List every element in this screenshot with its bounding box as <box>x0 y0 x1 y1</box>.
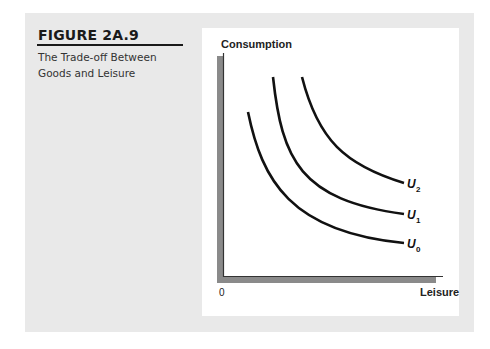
y-axis-shadow <box>217 56 223 283</box>
indifference-curve-diagram: Consumption Leisure 0 U 2 U 1 U 0 <box>0 0 490 349</box>
curve-label-u1: U 1 <box>407 208 421 225</box>
curve-label-u0: U 0 <box>407 237 421 254</box>
svg-text:0: 0 <box>416 245 421 254</box>
svg-text:2: 2 <box>416 185 421 194</box>
curve-u2 <box>302 77 404 183</box>
x-axis-shadow <box>217 277 436 283</box>
svg-text:1: 1 <box>416 216 421 225</box>
curve-label-u2: U 2 <box>407 177 421 194</box>
svg-text:U: U <box>407 208 416 222</box>
x-axis-label: Leisure <box>420 286 459 298</box>
y-axis-label: Consumption <box>221 38 292 50</box>
svg-text:U: U <box>407 177 416 191</box>
curve-u1 <box>273 77 404 214</box>
origin-label: 0 <box>219 287 225 298</box>
svg-text:U: U <box>407 237 416 251</box>
